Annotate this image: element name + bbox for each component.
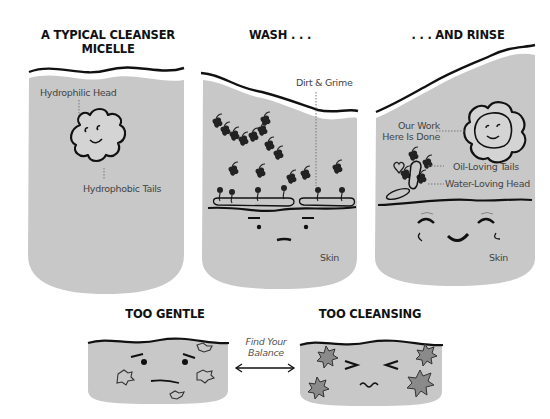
label-hydrophobic-tails: Hydrophobic Tails	[83, 183, 161, 194]
balance-arrow	[236, 364, 294, 372]
label-hydrophilic-head: Hydrophilic Head	[40, 87, 117, 98]
label-find-balance: Find Your Balance	[238, 336, 294, 358]
label-dirt-grime: Dirt & Grime	[296, 77, 352, 88]
label-line: Here Is Done	[380, 131, 440, 142]
label-line: Our Work	[380, 120, 440, 131]
label-our-work: Our Work Here Is Done	[380, 120, 440, 142]
panel-title-wash: WASH . . .	[200, 28, 360, 42]
micelle-character	[71, 109, 125, 161]
title-too-gentle: TOO GENTLE	[100, 307, 230, 321]
panel-too-gentle	[88, 339, 229, 404]
label-skin: Skin	[489, 252, 508, 263]
label-line: Balance	[238, 347, 294, 358]
panel-too-cleansing	[300, 341, 443, 406]
label-water-loving-head: Water-Loving Head	[445, 178, 530, 189]
label-line: Find Your	[238, 336, 294, 347]
label-oil-loving-tails: Oil-Loving Tails	[453, 161, 519, 172]
title-line: A TYPICAL CLEANSER	[28, 28, 188, 42]
panel-micelle	[28, 67, 184, 294]
title-too-cleansing: TOO CLEANSING	[300, 307, 440, 321]
label-skin: Skin	[320, 252, 339, 263]
panel-title-micelle: A TYPICAL CLEANSER MICELLE	[28, 28, 188, 56]
panel-title-rinse: . . . AND RINSE	[378, 28, 538, 42]
title-line: MICELLE	[28, 42, 188, 56]
water-surface-line	[29, 67, 184, 72]
